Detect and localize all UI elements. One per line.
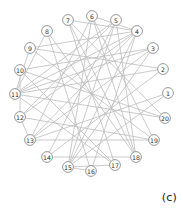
node-circle (148, 43, 159, 54)
graph-node-7[interactable]: 7 (63, 15, 74, 26)
graph-node-20[interactable]: 20 (160, 113, 171, 124)
node-circle (149, 135, 160, 146)
graph-edge (24, 74, 111, 161)
graph-node-1[interactable]: 1 (163, 88, 174, 99)
node-circle (15, 65, 26, 76)
graph-edge (72, 96, 163, 164)
graph-node-8[interactable]: 8 (42, 26, 53, 37)
node-circle (10, 89, 21, 100)
graph-edge (22, 122, 28, 135)
graph-edge (20, 95, 159, 117)
graph-node-9[interactable]: 9 (25, 43, 36, 54)
node-circle (87, 11, 98, 22)
graph-node-19[interactable]: 19 (149, 135, 160, 146)
panel-caption: (c) (162, 191, 177, 204)
node-circle (131, 152, 142, 163)
node-circle (63, 162, 74, 173)
graph-node-5[interactable]: 5 (111, 15, 122, 26)
node-circle (163, 88, 174, 99)
graph-edge (73, 21, 131, 30)
graph-node-2[interactable]: 2 (158, 64, 169, 75)
graph-canvas: 1234567891011121314151617181920 (0, 0, 183, 209)
node-circle (110, 160, 121, 171)
graph-edge (94, 21, 135, 152)
graph-edge (49, 36, 90, 166)
graph-node-12[interactable]: 12 (15, 112, 26, 123)
node-circle (25, 43, 36, 54)
graph-edge (73, 168, 85, 170)
node-circle (63, 15, 74, 26)
graph-node-3[interactable]: 3 (148, 43, 159, 54)
graph-node-18[interactable]: 18 (131, 152, 142, 163)
node-circle (86, 166, 97, 177)
graph-node-14[interactable]: 14 (42, 152, 53, 163)
graph-node-10[interactable]: 10 (15, 65, 26, 76)
circular-graph-figure: 1234567891011121314151617181920 (c) (0, 0, 183, 209)
node-circle (158, 64, 169, 75)
graph-edge (32, 21, 89, 135)
graph-node-4[interactable]: 4 (132, 26, 143, 37)
graph-node-6[interactable]: 6 (87, 11, 98, 22)
graph-node-13[interactable]: 13 (25, 135, 36, 146)
graph-node-16[interactable]: 16 (86, 166, 97, 177)
edge-layer (17, 18, 164, 170)
graph-node-17[interactable]: 17 (110, 160, 121, 171)
node-circle (42, 152, 53, 163)
graph-node-11[interactable]: 11 (10, 89, 21, 100)
node-circle (111, 15, 122, 26)
node-circle (25, 135, 36, 146)
node-circle (42, 26, 53, 37)
node-circle (132, 26, 143, 37)
graph-node-15[interactable]: 15 (63, 162, 74, 173)
node-circle (160, 113, 171, 124)
node-circle (15, 112, 26, 123)
